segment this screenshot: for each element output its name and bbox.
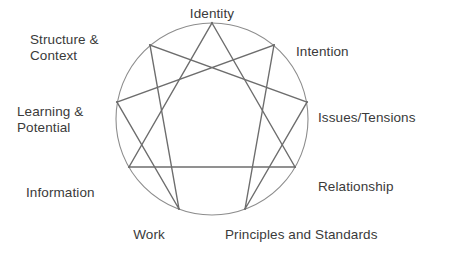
node-label-work: Work — [113, 227, 185, 243]
enneagram-triangle — [129, 23, 295, 167]
vertex-issues-tensions — [306, 101, 308, 103]
node-label-relationship: Relationship — [318, 179, 426, 195]
node-label-issues-tensions: Issues/Tensions — [318, 110, 448, 126]
node-label-learning-potential: Learning & Potential — [17, 104, 105, 136]
vertex-information — [128, 166, 130, 168]
vertex-principles-standards — [244, 208, 246, 210]
node-label-identity: Identity — [166, 6, 258, 22]
vertex-relationship — [294, 166, 296, 168]
node-label-principles-standards: Principles and Standards — [225, 227, 405, 243]
vertex-structure-context — [149, 44, 151, 46]
node-label-information: Information — [26, 185, 130, 201]
vertex-learning-potential — [116, 101, 118, 103]
enneagram-diagram: Identity Structure & Context Intention L… — [0, 0, 453, 259]
vertex-intention — [273, 44, 275, 46]
node-label-structure-context: Structure & Context — [30, 32, 122, 64]
vertex-identity — [211, 22, 213, 24]
enneagram-circle — [116, 23, 308, 215]
node-label-intention: Intention — [296, 44, 392, 60]
vertex-work — [178, 208, 180, 210]
enneagram-hexad — [117, 45, 307, 209]
